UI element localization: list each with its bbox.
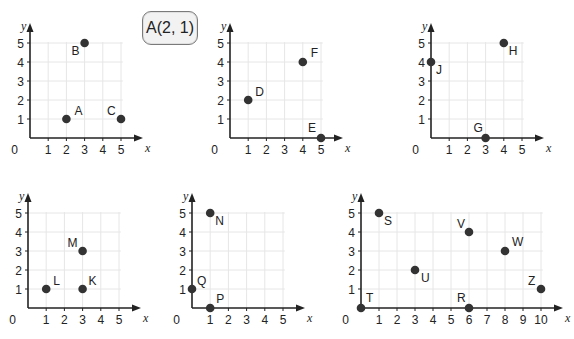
y-tick-label: 5 [15,207,22,221]
x-axis-arrow-icon [535,135,544,142]
point-marker [299,58,308,67]
x-tick-label: 2 [263,143,270,157]
x-axis-label: x [144,141,151,155]
x-axis-label: x [545,141,552,155]
point-M: M [68,236,87,255]
x-tick-label: 1 [43,313,50,327]
x-axis-label: x [344,141,351,155]
point-marker [206,209,215,218]
y-tick-label: 1 [217,113,224,127]
point-marker [78,285,87,294]
point-label: H [509,44,518,58]
point-label: A [74,104,82,118]
point-label: P [216,292,224,306]
origin-label: 0 [11,143,18,157]
x-tick-label: 5 [519,143,526,157]
point-label: J [436,63,442,77]
x-tick-label: 9 [520,313,527,327]
y-axis-label: y [182,189,189,203]
y-tick-label: 4 [15,226,22,240]
y-tick-label: 4 [348,226,355,240]
y-axis-arrow-icon [428,23,435,32]
x-tick-label: 2 [464,143,471,157]
gridlines [28,212,121,308]
point-L: L [42,274,60,293]
point-label: W [512,235,524,249]
point-marker [117,115,126,124]
point-N: N [206,209,224,228]
x-tick-label: 3 [281,143,288,157]
point-marker [244,96,253,105]
x-axis-arrow-icon [554,305,563,312]
point-label: V [457,217,465,231]
coordinate-grid-6: 12345678910123450xySVWUZTR [342,189,571,327]
x-tick-label: 5 [318,143,325,157]
point-label: B [72,44,80,58]
point-label: Z [528,274,535,288]
y-axis-arrow-icon [25,193,32,202]
y-tick-label: 1 [179,283,186,297]
point-label: D [255,85,264,99]
point-R: R [457,291,473,312]
point-label: F [311,46,318,60]
y-axis-label: y [18,189,25,203]
coordinate-grid-3: 12345123450xyJHG [412,19,552,157]
x-tick-label: 1 [446,143,453,157]
x-tick-label: 5 [448,313,455,327]
y-axis-arrow-icon [358,193,365,202]
point-marker [206,304,215,313]
point-K: K [78,274,96,293]
point-label: L [53,274,60,288]
x-tick-label: 4 [430,313,437,327]
point-B: B [72,39,89,58]
origin-label: 0 [211,143,218,157]
point-C: C [107,104,125,123]
x-tick-label: 2 [394,313,401,327]
y-tick-label: 5 [348,207,355,221]
point-H: H [500,39,518,58]
point-label: U [421,271,430,285]
point-label: C [107,104,116,118]
x-tick-label: 5 [116,313,123,327]
x-tick-label: 8 [502,313,509,327]
y-tick-label: 4 [17,56,24,70]
x-axis-label: x [564,311,571,325]
point-marker [78,247,87,256]
point-marker [427,58,436,67]
point-marker [500,39,509,48]
point-label: Q [197,274,206,288]
y-tick-label: 2 [418,94,425,108]
x-tick-label: 7 [484,313,491,327]
point-marker [42,285,51,294]
x-tick-label: 3 [412,313,419,327]
y-tick-label: 1 [15,283,22,297]
x-tick-label: 5 [118,143,125,157]
x-tick-label: 2 [63,143,70,157]
gridlines [192,212,285,308]
point-S: S [375,209,392,228]
y-tick-label: 3 [179,245,186,259]
point-marker [501,247,510,256]
x-tick-label: 2 [61,313,68,327]
y-tick-label: 2 [17,94,24,108]
x-tick-label: 4 [500,143,507,157]
y-tick-label: 3 [348,245,355,259]
point-label: E [308,121,316,135]
point-label: M [68,236,78,250]
point-marker [375,209,384,218]
point-marker [317,134,326,143]
point-marker [537,285,546,294]
x-tick-label: 1 [245,143,252,157]
point-label: S [384,214,392,228]
x-tick-label: 6 [466,313,473,327]
x-tick-label: 3 [79,313,86,327]
point-marker [188,285,197,294]
point-T: T [357,291,374,312]
y-tick-label: 2 [179,264,186,278]
x-tick-label: 4 [97,313,104,327]
y-tick-label: 5 [17,37,24,51]
point-marker [465,228,474,237]
y-tick-label: 1 [17,113,24,127]
point-V: V [457,217,473,236]
y-tick-label: 3 [17,75,24,89]
